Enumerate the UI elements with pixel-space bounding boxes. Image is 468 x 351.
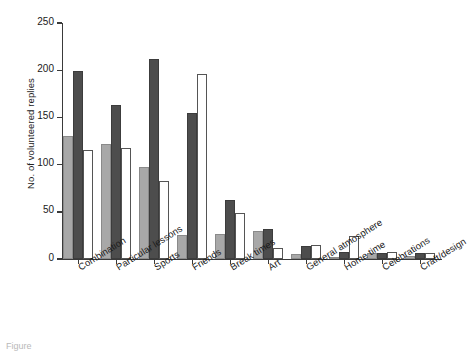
y-tick-mark bbox=[57, 164, 62, 165]
y-axis-title: No. of volunteered replies bbox=[25, 44, 36, 224]
bar bbox=[159, 181, 169, 259]
figure-caption: Figure bbox=[6, 341, 32, 351]
bar-group bbox=[215, 23, 245, 259]
bar bbox=[301, 246, 311, 259]
y-tick-mark bbox=[57, 70, 62, 71]
bar bbox=[187, 113, 197, 259]
bar-group bbox=[405, 23, 435, 259]
bar-group bbox=[253, 23, 283, 259]
plot-area: 050100150200250 bbox=[62, 23, 442, 259]
y-tick-mark bbox=[57, 117, 62, 118]
bar-group bbox=[101, 23, 131, 259]
bar bbox=[73, 71, 83, 259]
bar bbox=[149, 59, 159, 259]
bar bbox=[291, 254, 301, 259]
y-tick-mark bbox=[57, 22, 62, 23]
y-tick-label: 250 bbox=[37, 16, 54, 27]
bar-group bbox=[177, 23, 207, 259]
bar bbox=[83, 150, 93, 259]
y-tick-label: 50 bbox=[43, 204, 54, 215]
bar bbox=[197, 74, 207, 259]
y-tick-mark bbox=[57, 211, 62, 212]
y-tick-label: 0 bbox=[48, 252, 54, 263]
y-tick-mark bbox=[57, 258, 62, 259]
bar-group bbox=[63, 23, 93, 259]
bar-group bbox=[291, 23, 321, 259]
bar-group bbox=[329, 23, 359, 259]
bar bbox=[63, 136, 73, 259]
y-tick-label: 150 bbox=[37, 110, 54, 121]
y-tick-label: 200 bbox=[37, 63, 54, 74]
bar bbox=[225, 200, 235, 259]
y-tick-label: 100 bbox=[37, 157, 54, 168]
bar-group bbox=[139, 23, 169, 259]
bar bbox=[339, 252, 349, 259]
